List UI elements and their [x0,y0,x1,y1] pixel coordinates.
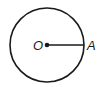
center-label: O [33,38,43,53]
circle-diagram: O A [0,0,105,87]
point-label: A [86,38,96,53]
center-point [45,43,50,48]
